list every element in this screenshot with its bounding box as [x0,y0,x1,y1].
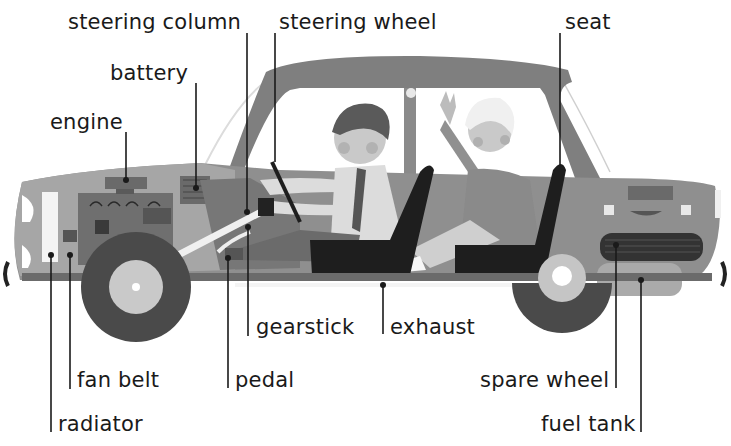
label-radiator: radiator [58,414,143,435]
label-spare-wheel: spare wheel [480,370,609,391]
label-exhaust: exhaust [390,317,475,338]
label-battery: battery [110,63,188,84]
label-seat: seat [565,12,611,33]
label-engine: engine [50,112,123,133]
label-steering-wheel: steering wheel [279,12,437,33]
label-gearstick: gearstick [256,317,354,338]
label-fan-belt: fan belt [77,370,159,391]
label-pedal: pedal [235,370,294,391]
label-steering-column: steering column [68,12,241,33]
front-wheel [81,232,191,342]
car-diagram: steering column steering wheel seat batt… [0,0,731,446]
label-fuel-tank: fuel tank [541,414,636,435]
